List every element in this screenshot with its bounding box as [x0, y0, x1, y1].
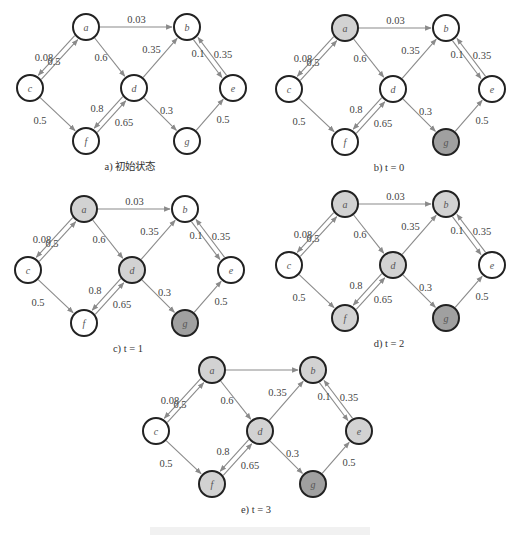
node-b-label: b [444, 199, 449, 210]
node-c-label: c [287, 260, 292, 271]
panel-b: 0.080.50.030.60.50.80.650.350.30.10.350.… [276, 15, 505, 174]
node-e-label: e [229, 265, 234, 276]
node-g: g [174, 128, 200, 154]
node-e: e [479, 76, 505, 102]
node-a-label: a [343, 199, 348, 210]
weight-label-b-e: 0.1 [317, 391, 330, 402]
node-c: c [15, 257, 41, 283]
weight-label-a-b: 0.03 [125, 196, 143, 207]
node-g: g [433, 305, 459, 331]
node-b-label: b [185, 22, 190, 33]
weight-label-d-f: 0.65 [115, 117, 133, 128]
weight-label-e-b: 0.35 [214, 49, 232, 60]
panel-e: 0.080.50.60.50.80.650.350.30.10.350.5abc… [143, 357, 372, 516]
panel-b-caption: b) t = 0 [374, 162, 405, 174]
weight-label-d-g: 0.3 [419, 106, 432, 117]
weight-label-d-g: 0.3 [286, 448, 299, 459]
weight-label-d-f: 0.65 [113, 299, 131, 310]
node-a: a [199, 357, 225, 383]
node-f: f [71, 310, 97, 336]
weight-label-e-b: 0.35 [473, 50, 491, 61]
weight-label-d-g: 0.3 [419, 282, 432, 293]
node-b-label: b [444, 23, 449, 34]
panel-a: 0.080.50.030.60.50.80.650.350.30.10.350.… [17, 14, 246, 173]
node-e: e [218, 257, 244, 283]
weight-label-a-c: 0.5 [47, 56, 60, 67]
node-e: e [479, 252, 505, 278]
node-e-label: e [490, 260, 495, 271]
node-e: e [220, 75, 246, 101]
weight-label-a-b: 0.03 [127, 14, 145, 25]
node-g-label: g [444, 137, 449, 148]
node-a: a [73, 14, 99, 40]
weight-label-d-b: 0.35 [140, 226, 158, 237]
weight-label-a-b: 0.03 [386, 191, 404, 202]
node-b: b [433, 15, 459, 41]
node-c-label: c [287, 84, 292, 95]
weight-label-d-f: 0.65 [374, 118, 392, 129]
weight-label-f-d: 0.8 [349, 280, 362, 291]
node-b: b [433, 191, 459, 217]
node-a: a [332, 15, 358, 41]
weight-label-f-d: 0.8 [90, 103, 103, 114]
node-g: g [300, 471, 326, 497]
propagation-diagram: 0.080.50.030.60.50.80.650.350.30.10.350.… [0, 0, 515, 537]
weight-label-g-e: 0.5 [475, 115, 488, 126]
weight-label-c-f: 0.5 [292, 116, 305, 127]
weight-label-d-f: 0.65 [374, 294, 392, 305]
weight-label-f-d: 0.8 [88, 285, 101, 296]
node-f: f [332, 129, 358, 155]
weight-label-e-b: 0.35 [212, 231, 230, 242]
node-f: f [73, 128, 99, 154]
node-a: a [71, 196, 97, 222]
weight-label-d-b: 0.35 [401, 221, 419, 232]
weight-label-a-c: 0.5 [306, 233, 319, 244]
node-c-label: c [154, 426, 159, 437]
panel-e-caption: e) t = 3 [241, 504, 271, 516]
node-g: g [433, 129, 459, 155]
weight-label-e-b: 0.35 [340, 392, 358, 403]
node-a-label: a [84, 22, 89, 33]
node-g: g [172, 310, 198, 336]
node-e-label: e [490, 84, 495, 95]
node-f: f [199, 471, 225, 497]
panel-d: 0.080.50.030.60.50.80.650.350.30.10.350.… [276, 191, 505, 350]
weight-label-a-d: 0.6 [92, 234, 105, 245]
weight-label-c-f: 0.5 [31, 297, 44, 308]
weight-label-g-e: 0.5 [216, 114, 229, 125]
node-c: c [276, 76, 302, 102]
node-g-label: g [183, 318, 188, 329]
weight-label-f-d: 0.8 [216, 446, 229, 457]
weight-label-d-b: 0.35 [268, 387, 286, 398]
weight-label-d-b: 0.35 [401, 45, 419, 56]
weight-label-a-d: 0.6 [353, 229, 366, 240]
node-a-label: a [210, 365, 215, 376]
panel-d-caption: d) t = 2 [374, 338, 405, 350]
weight-label-a-d: 0.6 [353, 53, 366, 64]
node-a: a [332, 191, 358, 217]
panel-c: 0.080.50.030.60.50.80.650.350.30.10.350.… [15, 196, 244, 355]
node-g-label: g [311, 479, 316, 490]
node-d: d [380, 76, 406, 102]
weight-label-e-b: 0.35 [473, 226, 491, 237]
node-e-label: e [231, 83, 236, 94]
weight-label-b-e: 0.1 [450, 225, 463, 236]
figure-caption-faint [150, 527, 370, 535]
node-e: e [346, 418, 372, 444]
weight-label-c-f: 0.5 [292, 292, 305, 303]
weight-label-c-f: 0.5 [159, 458, 172, 469]
node-c-label: c [26, 265, 31, 276]
weight-label-b-e: 0.1 [450, 49, 463, 60]
weight-label-a-c: 0.5 [306, 57, 319, 68]
weight-label-g-e: 0.5 [475, 291, 488, 302]
weight-label-b-e: 0.1 [191, 48, 204, 59]
node-d: d [247, 418, 273, 444]
node-f: f [332, 305, 358, 331]
node-b: b [174, 14, 200, 40]
node-b: b [300, 357, 326, 383]
node-b: b [172, 196, 198, 222]
node-c-label: c [28, 83, 33, 94]
weight-label-a-c: 0.5 [45, 238, 58, 249]
node-c: c [276, 252, 302, 278]
weight-label-g-e: 0.5 [342, 457, 355, 468]
